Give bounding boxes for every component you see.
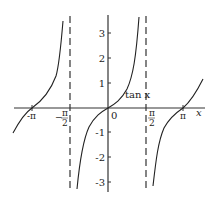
y-tick-label: -2 xyxy=(95,152,105,163)
x-tick-label-neg-pi: -π xyxy=(27,111,36,121)
tan-branch-right xyxy=(153,79,203,186)
x-tick-label-half-pi-den: 2 xyxy=(149,118,155,128)
origin-label: 0 xyxy=(111,110,117,121)
x-tick-label-neg-half-pi-num: π xyxy=(62,108,68,118)
tan-chart: 3 2 1 -1 -2 -3 -π − π 2 π 2 π 0 x tan x xyxy=(0,0,216,201)
function-label: tan x xyxy=(125,89,151,100)
y-tick-label: -1 xyxy=(95,127,105,138)
x-tick-label-pi: π xyxy=(180,111,186,121)
x-axis-label: x xyxy=(196,107,202,118)
x-tick-label-half-pi-num: π xyxy=(149,108,155,118)
y-tick-label: 2 xyxy=(99,53,105,64)
x-tick-label-neg-half-pi-den: 2 xyxy=(62,118,68,128)
y-tick-label: 1 xyxy=(99,78,105,89)
y-tick-label: -3 xyxy=(95,177,105,188)
y-tick-label: 3 xyxy=(99,28,105,39)
